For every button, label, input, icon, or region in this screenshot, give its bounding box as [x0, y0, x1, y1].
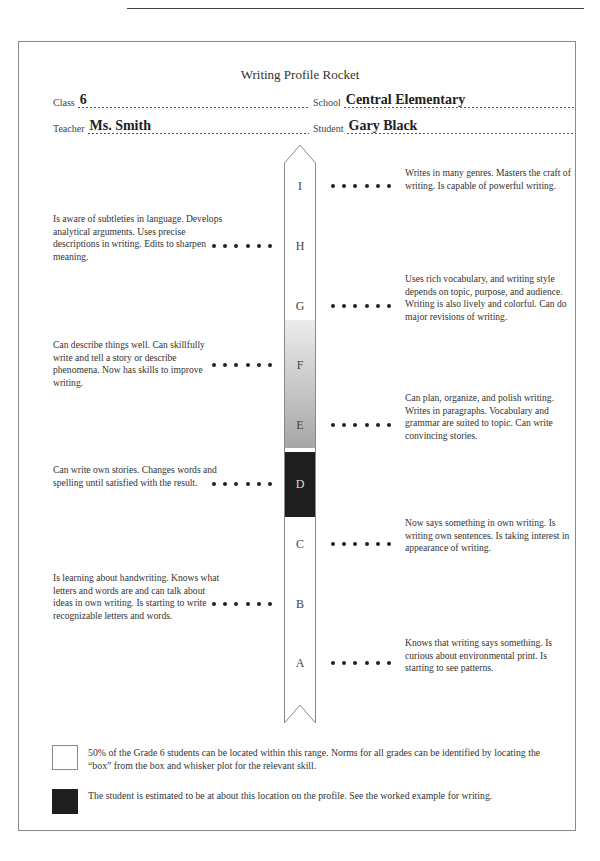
level-description-c: Now says something in own writing. Is wr…: [405, 517, 575, 555]
level-description-a: Knows that writing says something. Is cu…: [405, 637, 575, 675]
level-letter-f: F: [284, 358, 316, 372]
level-description-i: Writes in many genres. Masters the craft…: [405, 167, 575, 192]
dot-leader-e: [331, 422, 391, 428]
level-letter-h: H: [284, 239, 316, 253]
dot-leader-a: [331, 660, 391, 666]
level-description-b: Is learning about handwriting. Knows wha…: [53, 572, 223, 622]
dot-leader-g: [331, 303, 391, 309]
dot-leader-i: [331, 183, 391, 189]
level-letter-i: I: [284, 179, 316, 193]
level-letter-e: E: [284, 418, 316, 432]
legend-norm-text: 50% of the Grade 6 students can be locat…: [88, 746, 563, 772]
level-letter-d: D: [284, 477, 316, 491]
level-description-g: Uses rich vocabulary, and writing style …: [405, 273, 575, 323]
level-letter-g: G: [284, 299, 316, 313]
level-description-d: Can write own stories. Changes words and…: [53, 464, 223, 489]
level-description-f: Can describe things well. Can skillfully…: [53, 339, 223, 389]
legend-student-box: [52, 789, 78, 814]
level-letter-a: A: [284, 656, 316, 670]
level-letter-c: C: [284, 537, 316, 551]
level-description-h: Is aware of subtleties in language. Deve…: [53, 213, 223, 263]
legend-norm-box: [52, 745, 78, 770]
level-description-e: Can plan, organize, and polish writing. …: [405, 392, 575, 442]
legend-student-text: The student is estimated to be at about …: [88, 789, 563, 802]
dot-leader-c: [331, 541, 391, 547]
level-letter-b: B: [284, 597, 316, 611]
